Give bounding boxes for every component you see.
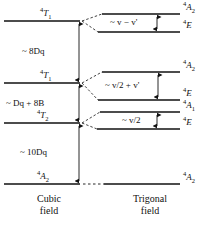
split-label-nu-minus-nuprime: ~ v − v'	[110, 18, 137, 27]
gap-label-8dq: ~ 8Dq	[22, 47, 45, 56]
correlation-line-t1upper-e	[82, 21, 98, 32]
correlation-line-t1lower-a2	[82, 72, 102, 83]
level-label-cubic-a2-ground: 4A2	[37, 172, 49, 181]
level-label-trig-a2-mid: 4A2	[183, 61, 195, 70]
level-label-cubic-t2-index: 2	[45, 115, 48, 122]
level-label-trig-e-top: 4E	[183, 21, 192, 30]
level-label-trig-e-mid-term: E	[186, 88, 192, 98]
correlation-line-t1upper-a2	[82, 14, 102, 21]
level-label-trig-a2-mid-index: 2	[192, 65, 195, 72]
level-label-trig-e-low-term: E	[186, 117, 192, 127]
level-label-cubic-t1-upper-index: 1	[48, 13, 51, 20]
level-label-trig-a1-index: 1	[192, 105, 195, 112]
level-label-cubic-a2-ground-index: 2	[46, 176, 49, 183]
level-label-trig-a2-ground-index: 2	[192, 177, 195, 184]
correlation-line-t1lower-e	[82, 83, 98, 100]
split-label-nu-half-plus-nuprime: ~ v/2 + v'	[105, 81, 139, 90]
level-label-cubic-t1-lower: 4T1	[40, 71, 52, 80]
gap-label-10dq: ~ 10Dq	[20, 148, 47, 157]
split-label-nu-half: ~ v/2	[122, 116, 141, 125]
level-label-trig-e-top-term: E	[186, 20, 192, 30]
level-label-cubic-t1-upper: 4T1	[40, 9, 52, 18]
level-label-trig-a1: 4A1	[183, 101, 195, 110]
level-label-cubic-t1-lower-index: 1	[48, 75, 51, 82]
level-label-trig-a2-top: 4A2	[183, 3, 195, 12]
level-label-trig-e-low: 4E	[183, 118, 192, 127]
caption-cubic-field: Cubic field	[14, 193, 84, 216]
diagram-lines-layer	[0, 0, 208, 225]
level-label-trig-e-mid: 4E	[183, 89, 192, 98]
caption-trigonal-field: Trigonal field	[112, 193, 188, 216]
gap-label-dq-8b: ~ Dq + 8B	[6, 99, 44, 108]
correlation-line-t2-e	[82, 123, 97, 129]
level-label-trig-a2-top-index: 2	[192, 7, 195, 14]
energy-level-diagram: 4T1 4T1 4T2 4A2 4A2 4E 4A2 4E 4A1 4E 4A2…	[0, 0, 208, 225]
correlation-line-t2-a1	[82, 112, 100, 123]
level-label-trig-a2-ground: 4A2	[183, 173, 195, 182]
level-label-cubic-t2: 4T2	[37, 111, 49, 120]
